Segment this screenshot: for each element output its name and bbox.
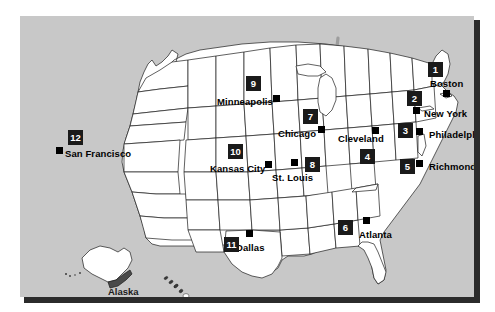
city-marker-boston[interactable] bbox=[443, 90, 450, 97]
rank-badge-1[interactable]: 1 bbox=[428, 62, 443, 77]
city-marker-chicago[interactable] bbox=[318, 126, 325, 133]
city-label-dallas: Dallas bbox=[236, 243, 265, 253]
rank-badge-8[interactable]: 8 bbox=[305, 157, 320, 172]
rank-badge-3[interactable]: 3 bbox=[398, 123, 413, 138]
rank-badge-12[interactable]: 12 bbox=[68, 130, 83, 145]
marker-layer: Boston1New York2Philadelphia3Cleveland4R… bbox=[20, 16, 474, 297]
city-label-new-york: New York bbox=[424, 109, 467, 119]
inset-label-alaska: Alaska bbox=[108, 287, 139, 297]
city-label-philadelphia: Philadelphia bbox=[429, 130, 474, 140]
city-marker-st-louis[interactable] bbox=[291, 159, 298, 166]
rank-badge-2[interactable]: 2 bbox=[407, 91, 422, 106]
rank-badge-11[interactable]: 11 bbox=[224, 237, 239, 252]
city-marker-kansas-city[interactable] bbox=[265, 161, 272, 168]
map-panel[interactable]: Boston1New York2Philadelphia3Cleveland4R… bbox=[20, 16, 474, 297]
city-marker-minneapolis[interactable] bbox=[273, 95, 280, 102]
city-label-atlanta: Atlanta bbox=[359, 230, 392, 240]
city-label-richmond: Richmond bbox=[429, 162, 474, 172]
city-label-minneapolis: Minneapolis bbox=[217, 97, 273, 107]
city-marker-new-york[interactable] bbox=[413, 107, 420, 114]
city-label-cleveland: Cleveland bbox=[338, 134, 384, 144]
city-label-chicago: Chicago bbox=[278, 129, 316, 139]
map-figure: Boston1New York2Philadelphia3Cleveland4R… bbox=[0, 0, 495, 312]
city-label-san-francisco: San Francisco bbox=[65, 149, 131, 159]
rank-badge-5[interactable]: 5 bbox=[400, 159, 415, 174]
city-marker-san-francisco[interactable] bbox=[56, 147, 63, 154]
city-marker-atlanta[interactable] bbox=[363, 217, 370, 224]
city-label-boston: Boston bbox=[430, 79, 463, 89]
rank-badge-7[interactable]: 7 bbox=[303, 109, 318, 124]
city-label-kansas-city: Kansas City bbox=[210, 164, 265, 174]
rank-badge-6[interactable]: 6 bbox=[338, 220, 353, 235]
rank-badge-9[interactable]: 9 bbox=[246, 76, 261, 91]
rank-badge-10[interactable]: 10 bbox=[228, 144, 243, 159]
city-marker-philadelphia[interactable] bbox=[416, 128, 423, 135]
city-marker-dallas[interactable] bbox=[246, 230, 253, 237]
city-marker-richmond[interactable] bbox=[416, 160, 423, 167]
rank-badge-4[interactable]: 4 bbox=[360, 149, 375, 164]
city-label-st-louis: St. Louis bbox=[272, 173, 313, 183]
